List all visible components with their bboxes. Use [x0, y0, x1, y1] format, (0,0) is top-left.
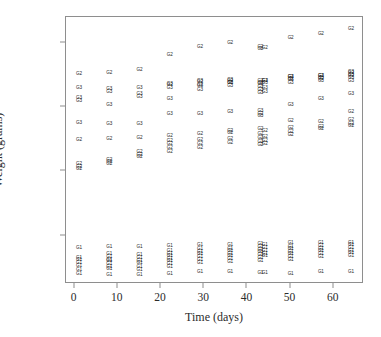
data-point-g3: G3: [136, 122, 142, 127]
data-point-g3: G3: [318, 79, 324, 84]
data-point-g2: G2: [167, 150, 173, 155]
data-point-g3: G3: [197, 112, 203, 117]
data-point-g2: G2: [76, 72, 82, 77]
data-point-g2: G2: [318, 127, 324, 132]
data-point-g2: G2: [262, 142, 268, 147]
data-point-g3: G3: [227, 84, 233, 89]
data-point-g2: G2: [106, 137, 112, 142]
x-axis-title: Time (days): [185, 310, 243, 325]
x-tick-mark: [289, 283, 290, 288]
data-point-g1: G1: [76, 272, 82, 277]
x-tick-mark: [160, 283, 161, 288]
data-point-g2: G2: [106, 161, 112, 166]
data-point-g3: G3: [288, 102, 294, 107]
data-point-g2: G2: [76, 138, 82, 143]
data-point-g2: G2: [348, 110, 354, 115]
data-point-g1: G1: [318, 255, 324, 260]
x-tick-mark: [332, 283, 333, 288]
data-point-g2: G2: [348, 26, 354, 31]
x-tick-mark: [246, 283, 247, 288]
data-point-g3: G3: [348, 92, 354, 97]
data-point-g1: G1: [76, 246, 82, 251]
data-point-g1: G1: [197, 270, 203, 275]
data-point-g2: G2: [348, 124, 354, 129]
data-point-g2: G2: [227, 141, 233, 146]
data-point-g2: G2: [106, 71, 112, 76]
data-point-g1: G1: [167, 265, 173, 270]
data-point-g2: G2: [227, 40, 233, 45]
data-point-g2: G2: [76, 167, 82, 172]
x-tick-label: 40: [241, 291, 253, 303]
data-point-g2: G2: [318, 32, 324, 37]
x-tick-label: 60: [327, 291, 339, 303]
data-point-g3: G3: [227, 110, 233, 115]
data-point-g3: G3: [167, 86, 173, 91]
data-point-g1: G1: [106, 244, 112, 249]
data-point-g1: G1: [227, 270, 233, 275]
data-point-g2: G2: [136, 154, 142, 159]
data-point-g2: G2: [288, 35, 294, 40]
data-point-g1: G1: [227, 260, 233, 265]
x-tick-mark: [116, 283, 117, 288]
data-point-g2: G2: [167, 53, 173, 58]
data-point-g1: G1: [136, 273, 142, 278]
data-point-g1: G1: [262, 271, 268, 276]
data-point-g1: G1: [106, 273, 112, 278]
data-point-g1: G1: [136, 245, 142, 250]
data-point-g2: G2: [262, 46, 268, 51]
data-point-g3: G3: [106, 102, 112, 107]
data-point-g3: G3: [318, 96, 324, 101]
data-point-g3: G3: [106, 89, 112, 94]
data-point-g2: G2: [288, 133, 294, 138]
x-tick-mark: [203, 283, 204, 288]
data-point-g3: G3: [348, 78, 354, 83]
data-point-g3: G3: [76, 121, 82, 126]
data-point-g3: G3: [76, 85, 82, 90]
data-point-g3: G3: [288, 81, 294, 86]
data-point-g1: G1: [262, 254, 268, 259]
data-point-g1: G1: [167, 271, 173, 276]
data-point-g1: G1: [197, 260, 203, 265]
data-point-g1: G1: [348, 270, 354, 275]
data-point-g3: G3: [257, 114, 263, 119]
data-point-g3: G3: [197, 87, 203, 92]
data-point-g1: G1: [348, 254, 354, 259]
data-point-g1: G1: [318, 270, 324, 275]
data-point-g2: G2: [197, 145, 203, 150]
x-tick-label: 10: [111, 291, 123, 303]
data-point-g2: G2: [227, 131, 233, 136]
data-point-g3: G3: [136, 95, 142, 100]
x-tick-label: 50: [284, 291, 296, 303]
data-point-g2: G2: [136, 67, 142, 72]
data-point-g1: G1: [288, 272, 294, 277]
y-axis-title: Weight (grams): [0, 113, 6, 188]
x-tick-label: 30: [197, 291, 209, 303]
data-point-g2: G2: [288, 119, 294, 124]
data-point-g3: G3: [262, 89, 268, 94]
data-point-g1: G1: [288, 258, 294, 263]
x-tick-label: 0: [71, 291, 77, 303]
data-point-g3: G3: [106, 122, 112, 127]
data-point-g2: G2: [136, 136, 142, 141]
data-point-g3: G3: [167, 96, 173, 101]
data-point-g2: G2: [197, 45, 203, 50]
data-point-g3: G3: [76, 99, 82, 104]
data-point-g1: G1: [257, 259, 263, 264]
data-point-g3: G3: [167, 112, 173, 117]
plot-area: G1G1G1G1G1G1G1G1G1G1G1G1G1G1G1G1G1G1G1G1…: [66, 17, 362, 282]
scatter-plot-figure: Weight (grams) 300400500600 010203040506…: [0, 0, 381, 337]
x-tick-mark: [73, 283, 74, 288]
x-tick-label: 20: [154, 291, 166, 303]
plot-frame: G1G1G1G1G1G1G1G1G1G1G1G1G1G1G1G1G1G1G1G1…: [65, 16, 363, 283]
